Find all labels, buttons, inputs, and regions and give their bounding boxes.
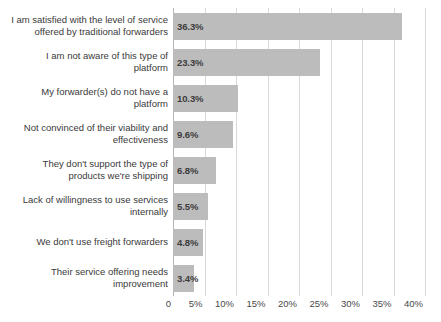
bar-value-label: 36.3% — [177, 21, 203, 32]
category-label: I am not aware of this type of platform — [0, 50, 168, 74]
category-axis-labels: I am satisfied with the level of service… — [0, 8, 168, 296]
bar-value-label: 6.8% — [177, 165, 198, 176]
bar-row: 23.3% — [173, 49, 425, 76]
bar-row: 5.5% — [173, 193, 425, 220]
x-tick-label: 25% — [309, 298, 331, 309]
x-tick-label: 35% — [372, 298, 394, 309]
bar — [173, 13, 402, 40]
category-label: We don't use freight forwarders — [0, 236, 168, 248]
category-label: They don't support the type of products … — [0, 158, 168, 182]
category-label: My forwarder(s) do not have a platform — [0, 86, 168, 110]
category-label: Not convinced of their viability and eff… — [0, 122, 168, 146]
bar-row: 36.3% — [173, 13, 425, 40]
bar-row: 4.8% — [173, 229, 425, 256]
bar-row: 6.8% — [173, 157, 425, 184]
bar-chart: I am satisfied with the level of service… — [0, 0, 441, 322]
bar-value-label: 9.6% — [177, 129, 198, 140]
bar-value-label: 5.5% — [177, 201, 198, 212]
bar-row: 3.4% — [173, 265, 425, 292]
x-tick-label: 40% — [404, 298, 426, 309]
x-tick-label: 15% — [246, 298, 268, 309]
category-label: Their service offering needs improvement — [0, 266, 168, 290]
bars: 36.3%23.3%10.3%9.6%6.8%5.5%4.8%3.4% — [173, 8, 425, 296]
category-label: I am satisfied with the level of service… — [0, 14, 168, 38]
bar-value-label: 10.3% — [177, 93, 203, 104]
x-tick-label: 5% — [189, 298, 206, 309]
bar-row: 10.3% — [173, 85, 425, 112]
bar-value-label: 4.8% — [177, 237, 198, 248]
value-axis-tick-labels: 05%10%15%20%25%30%35%40% — [173, 298, 433, 316]
gridline — [425, 8, 426, 296]
x-tick-label: 10% — [215, 298, 237, 309]
plot-area: 36.3%23.3%10.3%9.6%6.8%5.5%4.8%3.4% — [173, 8, 425, 296]
x-tick-label: 30% — [341, 298, 363, 309]
x-tick-label: 20% — [278, 298, 300, 309]
category-label: Lack of willingness to use services inte… — [0, 194, 168, 218]
bar-row: 9.6% — [173, 121, 425, 148]
bar-value-label: 3.4% — [177, 273, 198, 284]
bar-value-label: 23.3% — [177, 57, 203, 68]
x-tick-label: 0 — [166, 298, 174, 309]
